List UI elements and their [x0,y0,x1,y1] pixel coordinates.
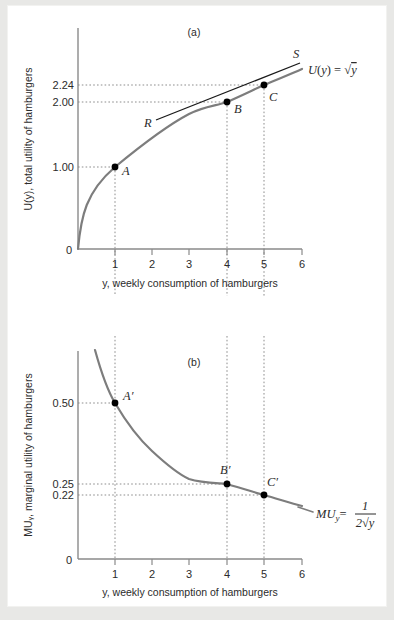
point-A-prime-label: A′ [122,389,134,403]
panel-b-ytick-022: 0.22 [53,489,74,501]
panel-b-x-ticks [115,559,302,565]
point-B-prime-label: B′ [220,463,231,477]
formula-numerator: 1 [362,499,368,513]
point-C-prime-label: C′ [267,475,278,489]
panel-a-ytick-100: 1.00 [53,161,74,173]
point-B [224,99,231,106]
panel-b-y-axis-title: MUᵧ, marginal utility of hamburgers [22,373,34,536]
formula-mu: MU [315,507,336,521]
panel-b: A′ B′ C′ MUy= 1 2√y 0.50 0.25 0.22 0 1 2… [22,336,376,598]
panel-a-label: (a) [188,26,201,38]
panel-a-xtick-1: 1 [112,258,118,270]
panel-a-ytick-200: 2.00 [53,96,74,108]
panel-b-xtick-1: 1 [112,568,118,580]
panel-a-xtick-6: 6 [299,258,305,270]
panel-a-origin-label: 0 [66,244,72,256]
point-A-prime [112,400,119,407]
panel-b-origin-label: 0 [66,554,72,566]
panel-b-formula-leader [298,507,313,512]
panel-b-xtick-4: 4 [224,568,230,580]
formula-denominator: 2√y [356,516,375,530]
panel-a-xtick-2: 2 [149,258,155,270]
point-C-label: C [269,90,278,104]
svg-text:MUy=: MUy= [315,507,347,523]
panel-a-x-ticks [115,249,302,255]
point-B-prime [224,481,231,488]
point-C [261,82,268,89]
tangent-start-label-R: R [143,116,152,130]
point-B-label: B [234,102,242,116]
panel-a-xtick-5: 5 [261,258,267,270]
panel-b-label: (b) [188,356,201,368]
panel-b-xtick-2: 2 [149,568,155,580]
svg-text:U(y) = √y: U(y) = √y [308,63,357,77]
tangent-end-label-S: S [293,47,300,61]
point-A-label: A [121,164,130,178]
panel-a-xtick-4: 4 [224,258,230,270]
panel-a: A B C R S U(y) = √y 2.24 2.00 1.00 0 1 2… [22,26,357,296]
panel-a-xtick-3: 3 [186,258,192,270]
point-A [112,164,119,171]
panel-b-xtick-6: 6 [299,568,305,580]
panel-a-ytick-224: 2.24 [53,79,74,91]
economics-figure: A B C R S U(y) = √y 2.24 2.00 1.00 0 1 2… [8,6,386,606]
panel-a-tangent-line-RS [156,63,300,120]
panel-a-y-axis-title: U(y), total utility of hamburgers [22,68,34,211]
point-C-prime [261,492,268,499]
formula-equals: = [339,507,346,521]
panel-b-curve-formula: MUy= 1 2√y [315,499,376,530]
panel-a-x-axis-title: y, weekly consumption of hamburgers [102,277,277,289]
panel-b-guides [78,336,264,559]
panel-a-guides [78,85,264,296]
panel-a-curve-formula: U(y) = √y [308,63,357,77]
figure-card: A B C R S U(y) = √y 2.24 2.00 1.00 0 1 2… [8,6,386,606]
panel-b-ytick-050: 0.50 [53,397,74,409]
panel-b-x-axis-title: y, weekly consumption of hamburgers [102,586,277,598]
panel-b-xtick-5: 5 [261,568,267,580]
panel-b-xtick-3: 3 [186,568,192,580]
